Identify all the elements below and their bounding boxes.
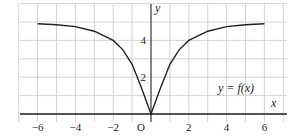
x-tick-label: −4 (70, 121, 82, 133)
x-tick-label: 4 (224, 121, 230, 133)
origin-label: O (137, 121, 145, 133)
x-axis-label: x (270, 96, 277, 110)
x-tick-label: −6 (32, 121, 44, 133)
x-tick-label: 6 (262, 121, 268, 133)
y-axis-label: y (154, 1, 161, 15)
y-tick-label: 2 (141, 71, 147, 83)
x-tick-label: 2 (186, 121, 192, 133)
function-graph: −6−4−2246 24 O x y y = f(x) (0, 0, 297, 139)
grid (19, 4, 287, 122)
function-annotation: y = f(x) (217, 81, 254, 95)
y-tick-label: 4 (141, 34, 147, 46)
x-tick-labels: −6−4−2246 (32, 121, 268, 133)
x-tick-label: −2 (107, 121, 119, 133)
